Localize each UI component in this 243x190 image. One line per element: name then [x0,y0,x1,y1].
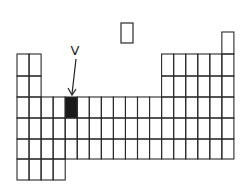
element-cell [210,54,222,76]
element-cell [210,76,222,97]
element-cell [186,118,198,139]
element-cell [198,118,210,139]
element-cell [162,118,174,139]
element-label: V [71,43,80,58]
element-cell [162,139,174,159]
element-cell [198,76,210,97]
element-cell [138,139,150,159]
element-cell [89,118,101,139]
element-cell [65,139,77,159]
element-cell [150,139,162,159]
element-cell [113,97,125,118]
element-cell [174,54,186,76]
element-cell [125,118,137,139]
isolated-element-box [121,23,133,43]
element-cell [162,54,174,76]
element-cell [17,139,29,159]
element-cell [53,139,65,159]
periodic-table-svg: V [0,0,243,190]
element-cell [210,118,222,139]
element-cell [89,97,101,118]
element-cell [125,139,137,159]
element-cell [17,76,29,97]
element-cell [101,97,113,118]
element-cell [174,139,186,159]
element-cell [101,118,113,139]
element-cell [138,118,150,139]
element-cell [29,118,41,139]
element-cell [77,97,89,118]
element-cell [222,118,234,139]
element-cell [198,139,210,159]
element-cell [29,159,41,180]
element-cell [198,54,210,76]
element-cell [150,97,162,118]
element-cell [41,159,53,180]
element-cell [113,139,125,159]
element-cell [186,139,198,159]
element-cell [77,118,89,139]
element-cell [162,76,174,97]
element-cell [174,118,186,139]
element-cell [29,139,41,159]
element-cell [41,118,53,139]
element-cell [222,139,234,159]
element-cell [41,139,53,159]
element-cell [222,76,234,97]
arrow-icon [68,59,76,95]
element-cell [17,159,29,180]
element-cell [138,97,150,118]
periodic-table-diagram: V [0,0,243,190]
element-cell [113,118,125,139]
highlighted-element-cell [65,97,77,118]
element-cell [174,97,186,118]
element-cell [17,97,29,118]
element-cell [186,76,198,97]
element-cell [65,118,77,139]
element-cell [150,118,162,139]
element-cell [41,97,53,118]
element-cell [210,97,222,118]
element-cell [210,139,222,159]
element-cell [162,97,174,118]
element-cell [17,118,29,139]
element-cell [53,159,65,180]
element-cell [29,54,41,76]
element-cell [29,97,41,118]
element-cell [222,54,234,76]
element-cell-helium [222,32,234,54]
table-cells [17,32,234,180]
element-cell [198,97,210,118]
element-cell [186,97,198,118]
element-cell [29,76,41,97]
element-cell [53,97,65,118]
element-cell [222,97,234,118]
element-cell [17,54,29,76]
element-cell [101,139,113,159]
element-cell [125,97,137,118]
element-cell [186,54,198,76]
element-cell [53,118,65,139]
element-cell [174,76,186,97]
element-cell [77,139,89,159]
element-cell [89,139,101,159]
